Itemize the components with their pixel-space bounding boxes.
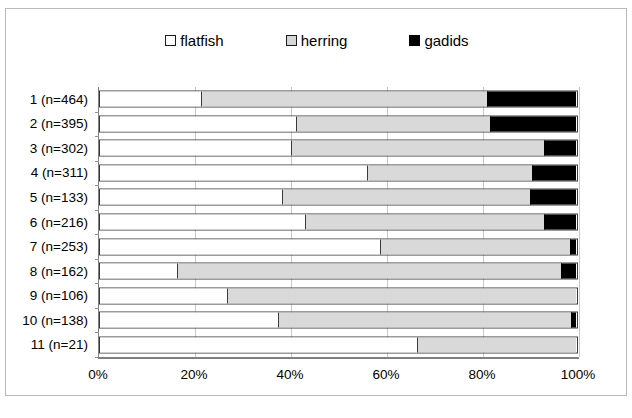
bar-segment-gadids — [490, 116, 576, 131]
table-row — [99, 336, 578, 353]
legend-swatch-herring-icon — [286, 35, 297, 46]
bar-segment-gadids — [532, 165, 576, 180]
bar-slot — [99, 259, 578, 284]
bar-segment-gadids — [570, 239, 576, 254]
bar-slot — [99, 308, 578, 333]
x-axis-tick-label: 60% — [372, 367, 399, 382]
bar-segment-flatfish — [100, 264, 179, 279]
bar-segment-herring — [282, 190, 530, 205]
bar-segment-flatfish — [100, 239, 381, 254]
bar-segment-herring — [177, 264, 561, 279]
bar-slot — [99, 210, 578, 235]
table-row — [99, 214, 578, 231]
plot-wrapper: 1 (n=464)2 (n=395)3 (n=302)4 (n=311)5 (n… — [6, 75, 628, 397]
table-row — [99, 263, 578, 280]
bar-segment-flatfish — [100, 313, 279, 328]
bar-segment-herring — [278, 313, 571, 328]
bar-segment-herring — [291, 141, 543, 156]
plot-area — [98, 87, 578, 357]
x-axis-line — [98, 357, 579, 359]
bar-segment-gadids — [544, 141, 576, 156]
table-row — [99, 312, 578, 329]
legend-item-flatfish: flatfish — [165, 33, 223, 48]
legend-label-flatfish: flatfish — [180, 33, 223, 48]
bar-slot — [99, 87, 578, 112]
bar-segment-flatfish — [100, 190, 284, 205]
bar-segment-gadids — [561, 264, 576, 279]
x-axis-tick-label: 80% — [468, 367, 495, 382]
bar-slot — [99, 161, 578, 186]
y-axis-tick-label: 2 (n=395) — [6, 112, 94, 137]
bar-segment-herring — [417, 337, 576, 352]
bar-segment-herring — [227, 288, 576, 303]
chart-frame: flatfish herring gadids 1 (n=464)2 (n=39… — [5, 8, 627, 396]
bar-segment-herring — [380, 239, 570, 254]
bar-segment-herring — [305, 215, 544, 230]
bar-segment-flatfish — [100, 165, 369, 180]
table-row — [99, 140, 578, 157]
y-axis-tick-label: 6 (n=216) — [6, 210, 94, 235]
y-axis-tick-label: 10 (n=138) — [6, 308, 94, 333]
bar-slot — [99, 332, 578, 357]
x-axis-tick-label: 40% — [276, 367, 303, 382]
table-row — [99, 287, 578, 304]
bar-segment-flatfish — [100, 116, 297, 131]
bar-segment-gadids — [487, 92, 575, 107]
y-axis-tick-label: 8 (n=162) — [6, 259, 94, 284]
bar-segment-gadids — [544, 215, 576, 230]
bar-slot — [99, 136, 578, 161]
y-axis-tick-label: 7 (n=253) — [6, 234, 94, 259]
bar-segment-gadids — [530, 190, 576, 205]
bar-segment-herring — [367, 165, 532, 180]
x-axis-tick-labels: 0%20%40%60%80%100% — [98, 363, 578, 389]
y-axis-tick-labels: 1 (n=464)2 (n=395)3 (n=302)4 (n=311)5 (n… — [6, 87, 94, 357]
bar-segment-flatfish — [100, 337, 418, 352]
bar-segment-flatfish — [100, 141, 293, 156]
table-row — [99, 238, 578, 255]
legend-item-gadids: gadids — [409, 33, 468, 48]
legend-swatch-gadids-icon — [409, 35, 420, 46]
table-row — [99, 115, 578, 132]
chart-legend: flatfish herring gadids — [6, 33, 628, 48]
bar-segment-flatfish — [100, 215, 307, 230]
table-row — [99, 189, 578, 206]
table-row — [99, 164, 578, 181]
bar-slot — [99, 112, 578, 137]
x-axis-tick-label: 0% — [88, 367, 108, 382]
legend-label-gadids: gadids — [424, 33, 468, 48]
bar-slot — [99, 185, 578, 210]
y-axis-tick-label: 1 (n=464) — [6, 87, 94, 112]
x-axis-tick-label: 100% — [561, 367, 596, 382]
legend-item-herring: herring — [286, 33, 348, 48]
bar-segment-flatfish — [100, 288, 228, 303]
y-axis-tick-label: 9 (n=106) — [6, 283, 94, 308]
x-axis-tick-label: 20% — [180, 367, 207, 382]
bar-segment-gadids — [571, 313, 576, 328]
y-axis-tick-label: 4 (n=311) — [6, 161, 94, 186]
bar-segment-herring — [296, 116, 490, 131]
bar-slot — [99, 234, 578, 259]
bar-segment-flatfish — [100, 92, 203, 107]
legend-label-herring: herring — [301, 33, 348, 48]
legend-swatch-flatfish-icon — [165, 35, 176, 46]
table-row — [99, 91, 578, 108]
bar-slot — [99, 283, 578, 308]
bar-segment-herring — [201, 92, 487, 107]
y-axis-tick-label: 3 (n=302) — [6, 136, 94, 161]
y-axis-tick-label: 11 (n=21) — [6, 332, 94, 357]
y-axis-tick-label: 5 (n=133) — [6, 185, 94, 210]
gridline — [579, 87, 580, 357]
bar-series-container — [99, 87, 578, 357]
